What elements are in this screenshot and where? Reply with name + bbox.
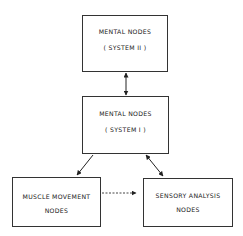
node-label-line2: NODES bbox=[144, 206, 232, 213]
edge-system1-muscle bbox=[77, 155, 93, 175]
node-mental-system-1: MENTAL NODES ( SYSTEM I ) bbox=[82, 96, 169, 154]
edge-system1-sensory bbox=[146, 155, 163, 176]
node-label-line1: MUSCLE MOVEMENT bbox=[13, 193, 100, 200]
node-sensory-analysis: SENSORY ANALYSIS NODES bbox=[143, 178, 233, 227]
node-label-line2: ( SYSTEM I ) bbox=[83, 126, 168, 133]
node-label-line2: ( SYSTEM II ) bbox=[83, 44, 167, 51]
node-label-line1: SENSORY ANALYSIS bbox=[144, 192, 232, 199]
node-label-line1: MENTAL NODES bbox=[83, 28, 167, 35]
node-label-line1: MENTAL NODES bbox=[83, 110, 168, 117]
node-label-line2: NODES bbox=[13, 207, 100, 214]
node-muscle-movement: MUSCLE MOVEMENT NODES bbox=[12, 177, 101, 227]
node-mental-system-2: MENTAL NODES ( SYSTEM II ) bbox=[82, 15, 168, 72]
